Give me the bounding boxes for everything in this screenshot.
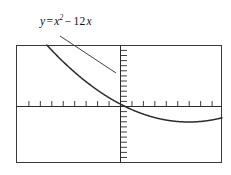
graph-canvas [0, 0, 231, 175]
parabola-path [47, 45, 222, 122]
y-axis-ticks [121, 50, 127, 157]
parabola-curve [47, 45, 222, 122]
quadratic-graph-figure: y=x2−12x [0, 0, 231, 175]
